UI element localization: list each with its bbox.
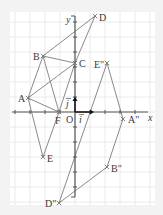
i-vector-label: i — [79, 114, 82, 125]
point-label-e: E — [47, 153, 53, 164]
point-label-a-double-prime: A" — [128, 114, 139, 125]
x-axis-label: x — [147, 112, 153, 123]
point-label-d: D — [99, 12, 106, 23]
point-label-c: C — [79, 58, 86, 69]
point-label-f: F — [55, 115, 61, 126]
point-label-b-double-prime: B" — [111, 163, 122, 174]
y-axis-label: y — [65, 14, 71, 25]
origin-label: O — [66, 114, 73, 125]
figure-canvas: y x O i j A B C D E F E" A" B" D" — [0, 0, 163, 215]
grid-panel — [10, 12, 155, 205]
point-label-b: B — [33, 51, 40, 62]
point-label-e-double-prime: E" — [94, 59, 104, 70]
point-label-a: A — [18, 93, 26, 104]
point-label-d-double-prime: D" — [45, 198, 56, 209]
